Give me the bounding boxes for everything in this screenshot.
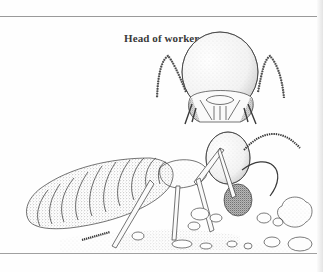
head-detail <box>157 32 284 124</box>
termite-illustration <box>0 0 323 272</box>
book-page: Head of worker <box>0 0 323 272</box>
